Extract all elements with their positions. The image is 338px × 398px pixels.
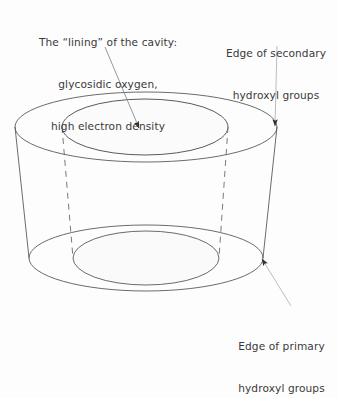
secondary-hydroxyl-edge-label: Edge of secondary hydroxyl groups xyxy=(214,18,338,130)
secondary-label-line-1: Edge of secondary xyxy=(214,46,338,60)
cavity-label-line-1: The “lining” of the cavity: xyxy=(0,35,216,49)
primary-label-line-2: hydroxyl groups xyxy=(225,381,338,395)
inner-wall-right-dashed xyxy=(219,127,228,258)
secondary-label-line-2: hydroxyl groups xyxy=(214,88,338,102)
primary-hydroxyl-edge-label: Edge of primary hydroxyl groups xyxy=(225,311,338,398)
cavity-lining-label: The “lining” of the cavity: glycosidic o… xyxy=(0,7,216,161)
primary-edge-leader-line xyxy=(262,259,291,306)
cone-right-wall xyxy=(263,127,277,258)
cavity-label-line-3: high electron density xyxy=(0,119,216,133)
bottom-inner-cavity xyxy=(73,231,219,285)
primary-label-line-1: Edge of primary xyxy=(225,339,338,353)
cavity-label-line-2: glycosidic oxygen, xyxy=(0,77,216,91)
